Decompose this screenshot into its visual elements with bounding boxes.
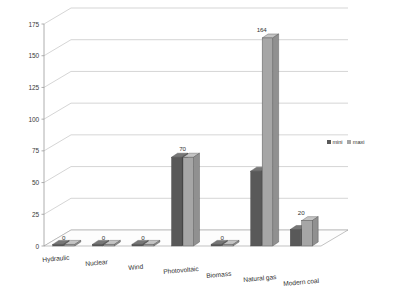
y-axis-tick-label: 100	[17, 116, 39, 123]
legend-entry[interactable]: mini	[327, 139, 342, 145]
legend-label: mini	[333, 139, 343, 145]
data-value-label: 70	[175, 145, 191, 152]
y-axis-tick-label: 125	[17, 84, 39, 91]
legend-swatch-icon	[327, 140, 331, 144]
chart-legend: minimaxi	[327, 139, 364, 145]
chart-plot-area	[0, 0, 406, 295]
legend-swatch-icon	[347, 140, 351, 144]
y-axis-tick-label: 0	[17, 243, 39, 250]
data-value-label: 164	[254, 26, 270, 33]
data-value-label: 0	[56, 234, 72, 241]
y-axis-tick-label: 75	[17, 147, 39, 154]
y-axis-tick-label: 25	[17, 211, 39, 218]
legend-label: maxi	[353, 139, 364, 145]
chart-container: 0255075100125150175 HydraulicNuclearWind…	[0, 0, 406, 295]
y-axis-tick-label: 50	[17, 179, 39, 186]
legend-entry[interactable]: maxi	[347, 139, 364, 145]
data-value-label: 0	[135, 234, 151, 241]
y-axis-tick-label: 150	[17, 52, 39, 59]
data-value-label: 0	[214, 234, 230, 241]
y-axis-tick-label: 175	[17, 21, 39, 28]
chart-axes	[42, 24, 45, 246]
data-value-label: 20	[293, 209, 309, 216]
bars-group	[53, 34, 318, 246]
x-axis-category-label: Wind	[128, 263, 143, 271]
data-value-label: 0	[95, 234, 111, 241]
